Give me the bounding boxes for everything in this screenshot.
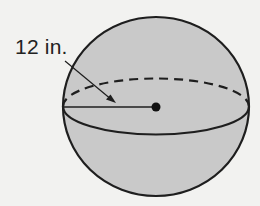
radius-label: 12 in.: [15, 35, 68, 59]
center-point: [152, 103, 161, 112]
sphere-diagram: 12 in.: [0, 0, 260, 206]
sphere-svg: [0, 0, 260, 206]
